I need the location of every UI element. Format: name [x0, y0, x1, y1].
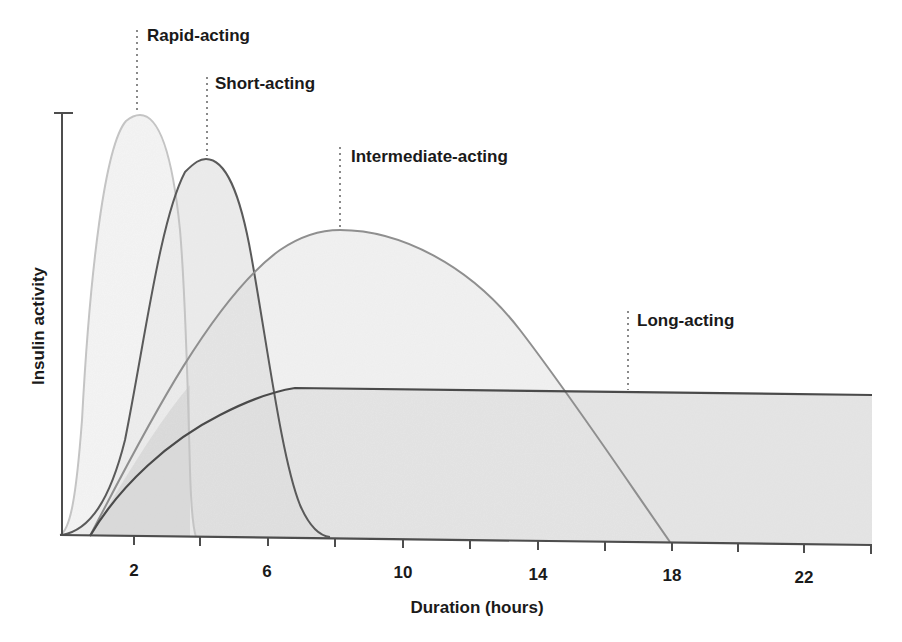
tick-label-14: 14 [529, 565, 548, 584]
tick-label-18: 18 [663, 566, 682, 585]
tick-label-2: 2 [129, 561, 138, 580]
insulin-activity-chart: Rapid-acting Short-acting Intermediate-a… [0, 0, 902, 642]
tick-label-22: 22 [795, 568, 814, 587]
long-acting-label: Long-acting [637, 311, 734, 330]
tick-label-6: 6 [262, 562, 271, 581]
intermediate-acting-label: Intermediate-acting [351, 147, 508, 166]
short-acting-label: Short-acting [215, 74, 315, 93]
y-axis-title: Insulin activity [29, 266, 48, 385]
x-axis-title: Duration (hours) [410, 598, 543, 617]
tick-label-10: 10 [394, 563, 413, 582]
rapid-acting-label: Rapid-acting [147, 26, 250, 45]
